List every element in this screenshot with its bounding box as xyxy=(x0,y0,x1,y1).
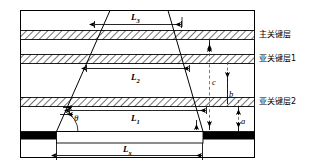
dimension-label-L2: L2 xyxy=(131,73,140,84)
goaf-void xyxy=(57,132,204,144)
angle-label-theta: θ xyxy=(74,114,78,123)
band-main-key-stratum xyxy=(21,31,255,40)
dimension-label-Lx: Lx xyxy=(123,145,132,156)
stratum-label-sub-key-2: 亚关键层2 xyxy=(259,98,296,106)
dimension-label-b: b xyxy=(229,90,233,99)
stratum-label-main-key: 主关键层 xyxy=(259,31,291,39)
stratum-label-sub-key-1: 亚关键层1 xyxy=(259,55,296,63)
dimension-label-L3: L3 xyxy=(131,13,140,24)
key-strata-diagram: L3 L2 L1 Lx c b a θ 主关键层 亚关键层1 亚关键层2 xyxy=(0,0,321,168)
coal-block-right xyxy=(203,132,255,140)
dimension-label-c: c xyxy=(212,78,216,87)
dimension-label-L1: L1 xyxy=(131,114,140,125)
band-sub-key-stratum-1 xyxy=(21,55,255,64)
dimension-label-a: a xyxy=(241,117,245,126)
coal-block-left xyxy=(21,132,57,140)
band-sub-key-stratum-2 xyxy=(21,98,255,107)
